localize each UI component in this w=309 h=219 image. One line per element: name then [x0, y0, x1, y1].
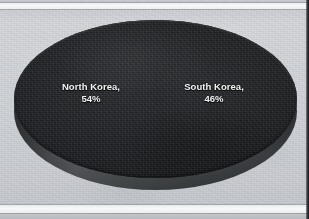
slice-label-north-korea-value: 54% [42, 93, 140, 105]
frame-top-rule-lower [0, 9, 309, 10]
frame-right-rule [306, 0, 309, 219]
frame-band-bottom [0, 205, 309, 213]
pie-chart-figure: North Korea, 54% South Korea, 46% [0, 0, 309, 219]
frame-bottom-shadow [0, 214, 309, 219]
slice-label-north-korea: North Korea, 54% [42, 81, 140, 104]
slice-label-south-korea: South Korea, 46% [165, 81, 263, 104]
slice-label-north-korea-name: North Korea, [62, 81, 120, 92]
pie-chart-graphic [14, 20, 297, 190]
slice-label-south-korea-name: South Korea, [184, 81, 244, 92]
slice-label-south-korea-value: 46% [165, 93, 263, 105]
